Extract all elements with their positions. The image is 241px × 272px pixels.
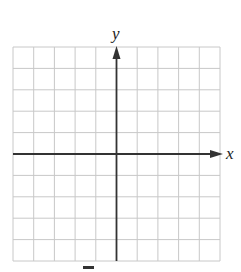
- y-axis-arrow-icon: [113, 46, 121, 59]
- coordinate-plane: [0, 0, 241, 272]
- cropped-caption-mark: [83, 266, 94, 269]
- y-axis-label: y: [112, 25, 120, 42]
- axes: [13, 46, 223, 261]
- x-axis-arrow-icon: [210, 150, 223, 158]
- x-axis-label: x: [226, 145, 234, 162]
